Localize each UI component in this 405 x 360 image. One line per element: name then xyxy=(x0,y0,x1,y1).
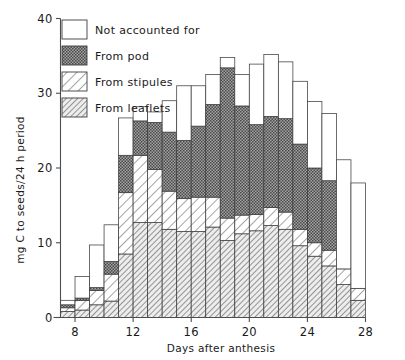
bar-segment xyxy=(278,119,293,212)
bar-group xyxy=(119,118,134,318)
bar-group xyxy=(61,300,76,317)
y-axis-tick-label: 0 xyxy=(45,311,53,325)
bar-segment xyxy=(278,212,293,229)
bar-group xyxy=(307,101,322,317)
bar-group xyxy=(133,107,148,318)
x-axis-tick-label: 28 xyxy=(358,325,373,339)
legend-swatch xyxy=(62,98,87,117)
bar-group xyxy=(206,75,221,318)
legend-label: From leaflets xyxy=(95,102,171,115)
bar-segment xyxy=(90,245,105,288)
bar-segment xyxy=(133,223,148,318)
bar-segment xyxy=(220,57,235,67)
bar-segment xyxy=(133,155,148,222)
bar-group xyxy=(264,54,279,317)
bar-segment xyxy=(264,226,279,318)
bar-group xyxy=(220,57,235,317)
legend-item: From leaflets xyxy=(62,98,171,117)
bar-segment xyxy=(90,305,105,318)
bar-segment xyxy=(104,261,119,274)
bar-segment xyxy=(293,81,308,144)
bar-segment xyxy=(307,101,322,168)
x-axis-title: Days after anthesis xyxy=(167,342,276,354)
bar-segment xyxy=(162,191,177,229)
bar-segment xyxy=(75,300,90,310)
x-axis-tick-label: 24 xyxy=(300,325,315,339)
bar-segment xyxy=(119,155,134,192)
bar-segment xyxy=(293,246,308,318)
bar-segment xyxy=(293,144,308,229)
bar-segment xyxy=(162,229,177,317)
legend-swatch xyxy=(62,46,87,65)
bar-segment xyxy=(206,104,221,197)
bar-segment xyxy=(235,215,250,234)
bar-segment xyxy=(249,64,264,125)
bar-segment xyxy=(177,199,192,232)
bar-segment xyxy=(90,291,105,305)
bar-segment xyxy=(235,106,250,215)
bar-segment xyxy=(75,310,90,317)
x-axis-tick-label: 12 xyxy=(126,325,141,339)
bar-segment xyxy=(148,122,163,169)
bar-segment xyxy=(148,170,163,223)
bar-segment xyxy=(220,68,235,218)
bar-segment xyxy=(264,208,279,226)
bar-group xyxy=(351,183,366,318)
bar-segment xyxy=(322,181,337,251)
bar-group xyxy=(336,160,351,318)
bar-segment xyxy=(278,62,293,119)
bar-segment xyxy=(177,140,192,198)
figure-container: 01020304081216202428Days after anthesism… xyxy=(0,0,405,360)
y-axis-title: mg C to seeds/24 h period xyxy=(14,116,26,264)
bar-segment xyxy=(351,183,366,288)
bar-group xyxy=(191,86,206,318)
bar-segment xyxy=(220,218,235,240)
bar-group xyxy=(278,62,293,318)
bar-segment xyxy=(235,75,250,106)
y-axis-tick-label: 30 xyxy=(37,86,52,100)
legend-item: From stipules xyxy=(62,72,173,91)
bar-group xyxy=(90,245,105,318)
bar-segment xyxy=(322,113,337,180)
bar-segment xyxy=(307,256,322,317)
y-axis-tick-label: 10 xyxy=(37,236,52,250)
x-axis-tick-label: 20 xyxy=(242,325,257,339)
bar-group xyxy=(162,101,177,318)
bar-segment xyxy=(322,266,337,318)
bar-segment xyxy=(191,86,206,126)
bar-segment xyxy=(75,276,90,298)
y-axis-tick-label: 20 xyxy=(37,161,52,175)
bar-segment xyxy=(61,300,76,304)
bar-segment xyxy=(61,312,76,318)
bar-segment xyxy=(336,269,351,285)
bar-segment xyxy=(351,300,366,317)
bar-segment xyxy=(119,254,134,318)
bar-group xyxy=(75,276,90,317)
bar-segment xyxy=(119,118,134,155)
legend-item: From pod xyxy=(62,46,149,65)
bar-segment xyxy=(191,197,206,231)
bar-segment xyxy=(220,241,235,318)
bar-segment xyxy=(351,288,366,300)
legend-swatch xyxy=(62,20,87,39)
bar-group xyxy=(148,112,163,318)
bar-segment xyxy=(61,308,76,312)
bar-segment xyxy=(177,232,192,318)
bar-segment xyxy=(249,231,264,318)
bar-group xyxy=(177,86,192,318)
bar-segment xyxy=(90,288,105,291)
bar-segment xyxy=(249,125,264,215)
bar-segment xyxy=(191,126,206,197)
bar-group xyxy=(249,64,264,317)
bar-segment xyxy=(336,285,351,318)
x-axis-tick-label: 8 xyxy=(71,325,79,339)
legend-label: From stipules xyxy=(95,76,173,89)
bar-segment xyxy=(264,54,279,116)
x-axis-tick-label: 16 xyxy=(184,325,199,339)
bars-layer xyxy=(61,54,366,317)
bar-segment xyxy=(336,160,351,269)
y-axis-tick-label: 40 xyxy=(37,12,52,26)
bar-group xyxy=(322,113,337,317)
bar-segment xyxy=(104,301,119,317)
bar-segment xyxy=(206,227,221,317)
